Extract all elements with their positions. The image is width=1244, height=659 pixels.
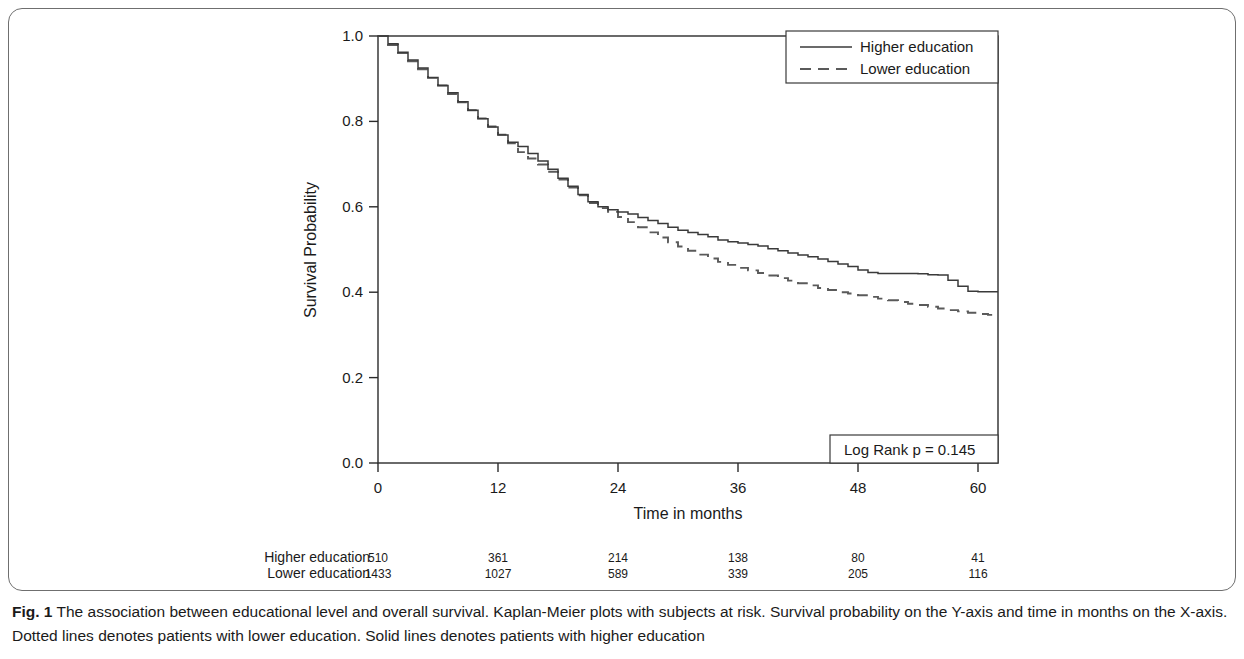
y-tick-label-0.0: 0.0	[342, 454, 363, 471]
x-axis-ticks: 01224364860	[374, 463, 987, 496]
y-tick-label-1.0: 1.0	[342, 27, 363, 44]
y-axis-ticks: 0.00.20.40.60.81.0	[342, 27, 378, 471]
figure-card: 0.00.20.40.60.81.0 01224364860 Survival …	[0, 0, 1244, 659]
y-tick-label-0.4: 0.4	[342, 283, 363, 300]
risk-value: 1433	[365, 567, 392, 581]
risk-row-label: Higher education	[264, 549, 370, 565]
risk-value: 116	[968, 567, 987, 581]
risk-value: 361	[488, 551, 508, 565]
risk-row-label: Lower education	[267, 565, 370, 581]
legend-label-higher-education: Higher education	[860, 38, 973, 55]
numbers-at-risk-table: Higher education5103612141388041Lower ed…	[264, 549, 988, 581]
risk-value: 80	[851, 551, 865, 565]
x-axis-title: Time in months	[634, 505, 743, 522]
y-axis-title: Survival Probability	[302, 182, 319, 318]
risk-value: 510	[368, 551, 388, 565]
risk-value: 138	[728, 551, 748, 565]
risk-value: 1027	[485, 567, 512, 581]
log-rank-text: Log Rank p = 0.145	[844, 441, 975, 458]
figure-caption-text: The association between educational leve…	[12, 603, 1227, 644]
x-tick-label-48: 48	[850, 479, 867, 496]
y-tick-label-0.6: 0.6	[342, 198, 363, 215]
figure-caption: Fig. 1 The association between education…	[8, 600, 1236, 648]
plot-area: 0.00.20.40.60.81.0 01224364860 Survival …	[0, 0, 1244, 600]
y-tick-label-0.8: 0.8	[342, 112, 363, 129]
risk-value: 339	[728, 567, 748, 581]
x-tick-label-24: 24	[610, 479, 627, 496]
log-rank-annotation: Log Rank p = 0.145	[830, 435, 998, 463]
x-tick-label-60: 60	[970, 479, 987, 496]
y-tick-label-0.2: 0.2	[342, 369, 363, 386]
risk-value: 205	[848, 567, 868, 581]
risk-value: 41	[971, 551, 985, 565]
risk-value: 214	[608, 551, 628, 565]
x-tick-label-0: 0	[374, 479, 382, 496]
chart-legend: Higher education Lower education	[786, 31, 998, 83]
legend-label-lower-education: Lower education	[860, 60, 970, 77]
x-tick-label-36: 36	[730, 479, 747, 496]
x-tick-label-12: 12	[490, 479, 507, 496]
risk-value: 589	[608, 567, 628, 581]
kaplan-meier-chart: 0.00.20.40.60.81.0 01224364860 Survival …	[0, 0, 1244, 600]
figure-label: Fig. 1	[12, 603, 52, 620]
